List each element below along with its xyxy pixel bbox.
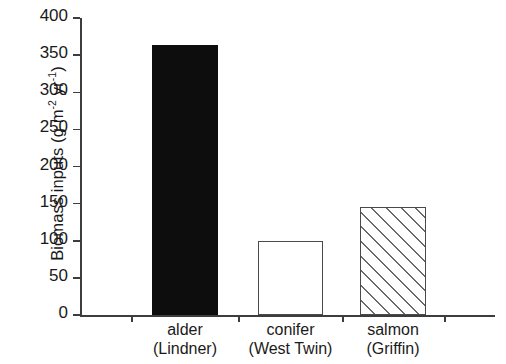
y-tick-label: 350 (40, 44, 68, 61)
y-tick-label: 100 (40, 230, 68, 247)
y-tick-label: 150 (40, 193, 68, 210)
bar-hatch-fill (361, 208, 425, 314)
x-axis-line (80, 315, 495, 317)
y-tick-mark (73, 203, 80, 205)
y-tick-mark (73, 240, 80, 242)
category-label-line1: salmon (367, 321, 419, 338)
y-tick-label: 200 (40, 156, 68, 173)
category-label-line2: (Griffin) (303, 340, 483, 359)
y-axis-line (80, 18, 82, 315)
y-tick-label: 300 (40, 81, 68, 98)
y-tick-label: 50 (49, 267, 68, 284)
y-axis-title-suffix: ) (48, 66, 66, 72)
bar-alder[interactable] (152, 45, 218, 315)
y-tick-mark (73, 166, 80, 168)
plot-area: 050100150200250300350400 (80, 18, 495, 315)
y-tick-mark (73, 17, 80, 19)
y-tick-label: 400 (40, 7, 68, 24)
y-tick-mark (73, 92, 80, 94)
y-axis-title-sup1: -2 (46, 100, 58, 110)
y-tick-mark (73, 54, 80, 56)
bar-salmon[interactable] (360, 207, 426, 315)
y-tick-mark (73, 129, 80, 131)
y-tick-label: 250 (40, 118, 68, 135)
bar-chart-figure: Biomass inputs (g m-2 yr-1) 050100150200… (0, 0, 506, 364)
y-tick-mark (73, 314, 80, 316)
y-tick-mark (73, 277, 80, 279)
category-label-line1: alder (167, 321, 203, 338)
category-label-salmon: salmon(Griffin) (303, 321, 483, 359)
bar-conifer[interactable] (258, 241, 323, 315)
y-tick-label: 0 (59, 304, 68, 321)
